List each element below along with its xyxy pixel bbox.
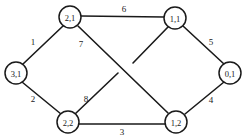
graph-edge xyxy=(22,82,61,114)
edge-label: 1 xyxy=(31,37,36,47)
graph-node: 2,1 xyxy=(59,6,81,28)
graph-node: 3,1 xyxy=(5,62,27,84)
node-label: 2,2 xyxy=(63,118,74,128)
graph-edge xyxy=(183,26,224,64)
graph-edge xyxy=(185,82,224,114)
graph-edge xyxy=(81,16,164,17)
edge-label: 3 xyxy=(120,127,125,137)
graph-node: 2,2 xyxy=(57,111,79,133)
node-label: 3,1 xyxy=(11,69,22,79)
node-label: 1,1 xyxy=(170,14,181,24)
edge-label: 5 xyxy=(209,37,214,47)
graph-node: 1,2 xyxy=(165,111,187,133)
graph-node: 1,1 xyxy=(164,7,186,29)
graph-edge xyxy=(78,26,168,113)
graph-diagram: 2,11,13,10,12,21,2 61572834 xyxy=(0,0,246,137)
edges-layer xyxy=(22,16,224,124)
graph-edge xyxy=(23,26,63,64)
graph-node: 0,1 xyxy=(219,62,241,84)
graph-edge xyxy=(75,73,118,114)
node-label: 0,1 xyxy=(225,69,236,79)
node-label: 2,1 xyxy=(65,13,76,23)
graph-canvas: 2,11,13,10,12,21,2 61572834 xyxy=(0,0,246,137)
node-label: 1,2 xyxy=(171,118,182,128)
edge-label: 6 xyxy=(122,4,127,14)
graph-edge xyxy=(133,27,168,63)
edge-label: 2 xyxy=(31,94,36,104)
edge-label: 4 xyxy=(209,95,214,105)
edge-label: 7 xyxy=(79,39,84,49)
edge-label: 8 xyxy=(84,94,89,104)
